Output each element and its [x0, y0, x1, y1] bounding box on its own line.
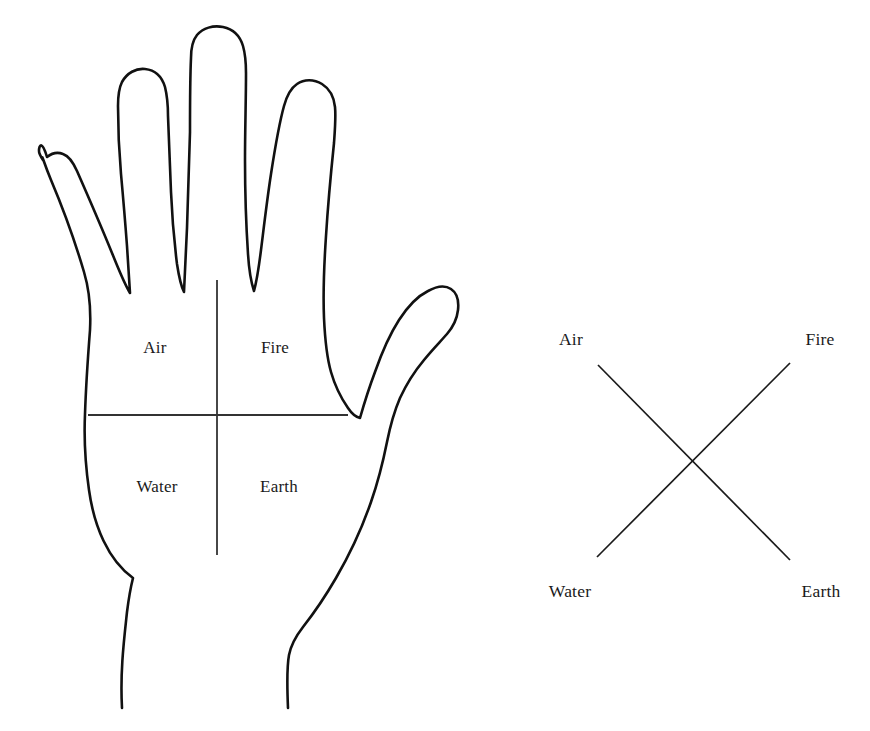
hand-label-fire: Fire [261, 339, 289, 356]
hand-outline-path [39, 26, 458, 708]
cross-stroke-air-to-earth [598, 365, 790, 560]
hand-label-water: Water [136, 478, 177, 495]
hand-outline-svg [0, 0, 870, 731]
cross-label-air: Air [559, 331, 583, 348]
hand-label-earth: Earth [260, 478, 298, 495]
cross-label-earth: Earth [802, 583, 841, 600]
diagram-page: Air Fire Water Earth Air Fire Water Eart… [0, 0, 870, 731]
cross-label-fire: Fire [806, 331, 835, 348]
cross-label-water: Water [549, 583, 591, 600]
hand-label-air: Air [143, 339, 166, 356]
cross-stroke-fire-to-water [597, 363, 790, 557]
